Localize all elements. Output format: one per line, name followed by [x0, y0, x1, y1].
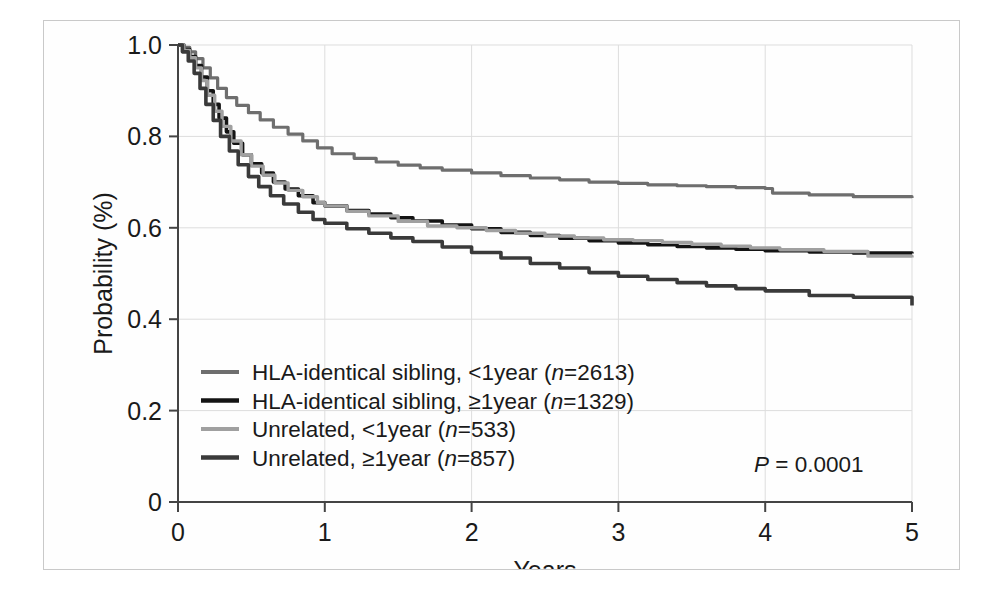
x-tick-label: 2 [465, 518, 479, 546]
series-line-3 [178, 45, 912, 305]
series-line-0 [178, 45, 912, 198]
legend: HLA-identical sibling, <1year (n=2613)HL… [201, 360, 635, 471]
x-axis-ticks: 012345 [171, 502, 919, 546]
x-tick-label: 4 [758, 518, 772, 546]
legend-label-0: HLA-identical sibling, <1year (n=2613) [252, 360, 635, 385]
x-tick-label: 1 [318, 518, 332, 546]
series-line-1 [178, 45, 912, 253]
figure-frame: 00.20.40.60.81.0012345YearsProbability (… [43, 20, 960, 570]
x-axis-title: Years [513, 556, 576, 569]
legend-label-1: HLA-identical sibling, ≥1year (n=1329) [252, 389, 634, 414]
p-value-annotation: P = 0.0001 [754, 452, 863, 477]
y-tick-label: 0.4 [127, 305, 162, 333]
y-tick-label: 0.6 [127, 214, 162, 242]
survival-curve-chart: 00.20.40.60.81.0012345YearsProbability (… [44, 21, 959, 569]
y-tick-label: 1.0 [127, 31, 162, 59]
series-line-2 [178, 45, 912, 258]
x-tick-label: 0 [171, 518, 185, 546]
legend-label-3: Unrelated, ≥1year (n=857) [252, 446, 515, 471]
series-group [178, 45, 912, 305]
y-tick-label: 0.8 [127, 122, 162, 150]
y-axis-ticks: 00.20.40.60.81.0 [127, 31, 178, 516]
y-tick-label: 0 [148, 488, 162, 516]
legend-label-2: Unrelated, <1year (n=533) [252, 417, 516, 442]
x-tick-label: 3 [611, 518, 625, 546]
y-axis-title: Probability (%) [89, 192, 117, 355]
y-tick-label: 0.2 [127, 397, 162, 425]
x-tick-label: 5 [905, 518, 919, 546]
